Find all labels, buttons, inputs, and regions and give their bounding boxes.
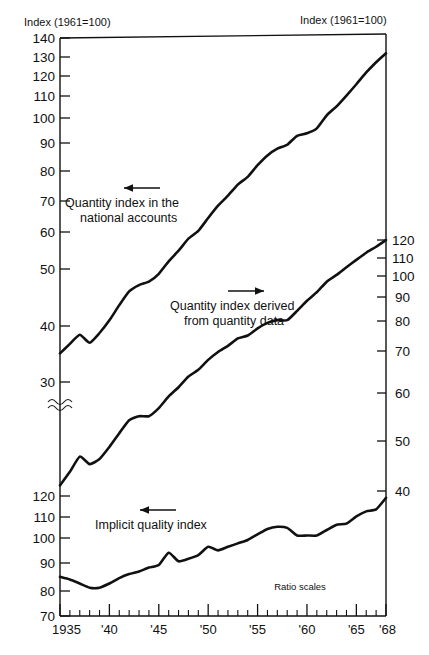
tick-right-40: 40: [395, 484, 410, 499]
x-axis-label-1965: '65: [348, 622, 365, 637]
tick-leftlow-120: 120: [32, 489, 55, 504]
tick-left-50: 50: [40, 262, 55, 277]
tick-leftlow-100: 100: [32, 531, 55, 546]
x-axis-labels: 1935'40'45'50'55'60'65'68: [52, 622, 396, 637]
x-axis-ticks: [60, 604, 386, 616]
annotation-line-1: Quantity index derived: [170, 299, 294, 313]
x-axis-label-1968: '68: [379, 622, 396, 637]
arrow-left-icon: [140, 506, 149, 514]
x-axis-label-1945: '45: [150, 622, 167, 637]
tick-left-100: 100: [32, 111, 55, 126]
tick-left-120: 120: [32, 69, 55, 84]
arrow-right-icon: [255, 287, 264, 295]
annotation-line-2: from quantity data: [184, 314, 284, 328]
left-lower-axis: 120 110 100 90 80 70: [32, 489, 70, 624]
arrow-left-icon: [124, 184, 133, 192]
x-axis-label-1955: '55: [249, 622, 266, 637]
annotation-line-2: national accounts: [80, 211, 177, 225]
chart-svg: Index (1961=100) Index (1961=100) 140 13…: [0, 0, 429, 655]
right-axis-title: Index (1961=100): [300, 14, 387, 26]
annotation-implicit-quality-index: Implicit quality index: [95, 506, 208, 532]
tick-leftlow-110: 110: [33, 510, 55, 525]
tick-leftlow-90: 90: [40, 556, 55, 571]
annotation-line-1: Implicit quality index: [95, 518, 208, 532]
tick-left-60: 60: [40, 225, 55, 240]
tick-right-90: 90: [395, 290, 410, 305]
tick-right-50: 50: [395, 434, 410, 449]
tick-leftlow-80: 80: [40, 584, 55, 599]
tick-left-40: 40: [40, 319, 55, 334]
x-axis-label-1940: '40: [101, 622, 118, 637]
tick-right-70: 70: [395, 344, 410, 359]
tick-left-130: 130: [32, 50, 55, 65]
tick-left-110: 110: [33, 89, 55, 104]
annotation-quantity-index-derived: Quantity index derived from quantity dat…: [170, 287, 294, 328]
x-axis-label-1950: '50: [200, 622, 217, 637]
tick-right-80: 80: [395, 314, 410, 329]
tick-left-80: 80: [40, 164, 55, 179]
x-axis-label-1960: '60: [298, 622, 315, 637]
series-line-quantity-index-derived: [60, 240, 386, 485]
tick-left-70: 70: [40, 194, 55, 209]
series-line-implicit-quality-index: [60, 498, 386, 588]
tick-left-30: 30: [40, 375, 55, 390]
left-upper-axis: 140 130 120 110 100 90 80 70 60 50 40 30: [32, 31, 70, 390]
chart-figure: Index (1961=100) Index (1961=100) 140 13…: [0, 0, 429, 655]
tick-right-120: 120: [392, 233, 415, 248]
annotation-line-1: Quantity index in the: [65, 196, 179, 210]
tick-left-90: 90: [40, 136, 55, 151]
tick-right-110: 110: [392, 251, 414, 266]
left-axis-title: Index (1961=100): [24, 16, 111, 28]
right-axis: 120 110 100 90 80 70 60 50 40: [377, 233, 415, 499]
tick-right-60: 60: [395, 386, 410, 401]
annotation-quantity-index-national-accounts: Quantity index in the national accounts: [65, 184, 179, 225]
tick-right-100: 100: [392, 269, 415, 284]
tick-left-140: 140: [32, 31, 55, 46]
x-axis-label-1935: 1935: [52, 622, 81, 637]
ratio-scales-note: Ratio scales: [274, 581, 326, 592]
